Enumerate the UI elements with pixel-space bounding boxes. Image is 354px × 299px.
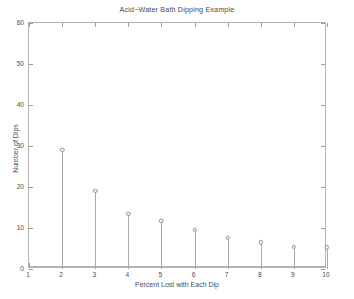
stem-line (327, 247, 328, 269)
plot-inner (29, 23, 325, 267)
y-tick-label: 10 (17, 224, 24, 231)
stem-line (195, 230, 196, 269)
x-tick-mark (62, 23, 63, 27)
stem-line (294, 247, 295, 269)
x-tick-mark (327, 23, 328, 27)
x-tick-label: 6 (192, 271, 196, 278)
x-tick-label: 4 (125, 271, 129, 278)
stem-line (62, 150, 63, 269)
y-tick-label: 60 (17, 19, 24, 26)
x-tick-mark (95, 23, 96, 27)
x-tick-mark (294, 23, 295, 27)
data-point-marker (292, 245, 296, 249)
stem-line (95, 191, 96, 269)
chart-title: Acid−Water Bath Dipping Example (0, 5, 354, 14)
y-tick-label: 0 (20, 265, 24, 272)
x-tick-mark (228, 23, 229, 27)
y-tick-mark (321, 269, 325, 270)
x-tick-label: 5 (159, 271, 163, 278)
y-tick-label: 20 (17, 183, 24, 190)
data-point-marker (259, 240, 263, 244)
x-tick-mark (195, 23, 196, 27)
plot-area (28, 22, 326, 268)
x-tick-mark (161, 23, 162, 27)
y-tick-label: 30 (17, 142, 24, 149)
x-tick-label: 10 (322, 271, 329, 278)
stem-line (128, 214, 129, 269)
y-tick-mark (321, 105, 325, 106)
y-tick-mark (321, 23, 325, 24)
y-tick-mark (321, 64, 325, 65)
x-tick-label: 7 (225, 271, 229, 278)
stem-line (228, 238, 229, 269)
data-point-marker (192, 227, 196, 231)
x-tick-label: 1 (26, 271, 30, 278)
data-point-marker (93, 189, 97, 193)
y-tick-mark (29, 187, 33, 188)
data-point-marker (225, 236, 229, 240)
y-tick-mark (29, 64, 33, 65)
x-tick-label: 2 (59, 271, 63, 278)
chart-figure: Acid−Water Bath Dipping Example Percent … (0, 0, 354, 299)
y-tick-mark (29, 105, 33, 106)
stem-line (261, 242, 262, 269)
y-tick-mark (321, 228, 325, 229)
x-tick-label: 8 (258, 271, 262, 278)
y-tick-mark (29, 228, 33, 229)
data-point-marker (325, 245, 329, 249)
x-tick-label: 3 (92, 271, 96, 278)
axis-baseline (29, 266, 325, 267)
stem-line (161, 221, 162, 269)
data-point-marker (159, 219, 163, 223)
x-tick-label: 9 (291, 271, 295, 278)
y-tick-mark (29, 146, 33, 147)
x-tick-mark (29, 263, 30, 267)
x-tick-mark (128, 23, 129, 27)
y-tick-label: 50 (17, 60, 24, 67)
data-point-marker (60, 148, 64, 152)
y-tick-mark (321, 146, 325, 147)
y-tick-mark (29, 23, 33, 24)
y-tick-mark (29, 269, 33, 270)
x-tick-mark (261, 23, 262, 27)
y-tick-label: 40 (17, 101, 24, 108)
x-axis-title: Percent Lost with Each Dip (28, 281, 326, 288)
data-point-marker (126, 211, 130, 215)
y-tick-mark (321, 187, 325, 188)
